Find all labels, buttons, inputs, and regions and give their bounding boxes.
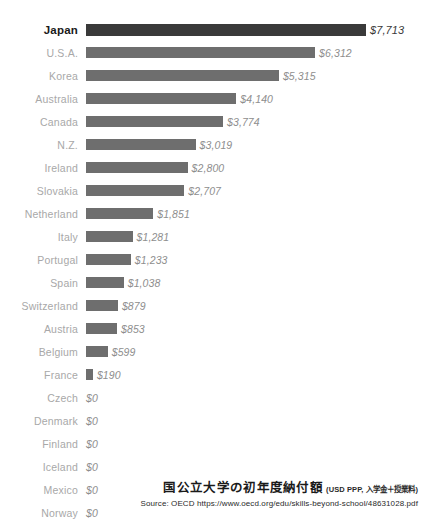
value-label: $3,774 (227, 116, 260, 128)
category-label: Japan (0, 24, 78, 36)
value-label: $1,851 (157, 208, 190, 220)
chart-row: U.S.A.$6,312 (0, 41, 426, 64)
category-label: N.Z. (0, 139, 78, 151)
value-label: $0 (86, 392, 98, 404)
bar (86, 24, 366, 36)
value-label: $1,038 (128, 277, 161, 289)
chart-row: Korea$5,315 (0, 64, 426, 87)
bar (86, 162, 188, 173)
chart-row: France$190 (0, 363, 426, 386)
bar (86, 231, 133, 242)
bar-area: $0 (78, 386, 426, 409)
chart-row: Italy$1,281 (0, 225, 426, 248)
bar-area: $599 (78, 340, 426, 363)
bar-area: $3,774 (78, 110, 426, 133)
bar (86, 323, 117, 334)
value-label: $7,713 (370, 24, 404, 36)
bar-area: $1,281 (78, 225, 426, 248)
category-label: Finland (0, 438, 78, 450)
chart-rows: Japan$7,713U.S.A.$6,312Korea$5,315Austra… (0, 18, 426, 530)
value-label: $3,019 (200, 139, 233, 151)
category-label: Spain (0, 277, 78, 289)
category-label: France (0, 369, 78, 381)
bar-area: $3,019 (78, 133, 426, 156)
bar (86, 139, 196, 150)
bar (86, 300, 118, 311)
category-label: Ireland (0, 162, 78, 174)
category-label: Canada (0, 116, 78, 128)
bar-area: $2,800 (78, 156, 426, 179)
value-label: $1,233 (135, 254, 168, 266)
value-label: $6,312 (319, 47, 352, 59)
chart-row: Slovakia$2,707 (0, 179, 426, 202)
category-label: U.S.A. (0, 47, 78, 59)
bar-area: $1,038 (78, 271, 426, 294)
category-label: Iceland (0, 461, 78, 473)
value-label: $599 (112, 346, 136, 358)
value-label: $4,140 (240, 93, 273, 105)
bar-area: $853 (78, 317, 426, 340)
bar-chart: Japan$7,713U.S.A.$6,312Korea$5,315Austra… (0, 0, 426, 530)
bar (86, 185, 184, 196)
value-label: $190 (97, 369, 121, 381)
chart-row: Japan$7,713 (0, 18, 426, 41)
chart-row: Sweden$0 (0, 524, 426, 530)
chart-row: Netherland$1,851 (0, 202, 426, 225)
value-label: $0 (86, 507, 98, 519)
value-label: $0 (86, 484, 98, 496)
chart-row: Iceland$0 (0, 455, 426, 478)
bar (86, 346, 108, 357)
value-label: $0 (86, 415, 98, 427)
chart-row: Finland$0 (0, 432, 426, 455)
bar (86, 369, 93, 380)
bar-area: $0 (78, 432, 426, 455)
category-label: Switzerland (0, 300, 78, 312)
category-label: Slovakia (0, 185, 78, 197)
value-label: $2,707 (188, 185, 221, 197)
bar (86, 70, 279, 81)
category-label: Mexico (0, 484, 78, 496)
bar-area: $0 (78, 524, 426, 530)
category-label: Portugal (0, 254, 78, 266)
chart-row: Ireland$2,800 (0, 156, 426, 179)
bar-area: $0 (78, 409, 426, 432)
category-label: Denmark (0, 415, 78, 427)
bar-area: $190 (78, 363, 426, 386)
category-label: Netherland (0, 208, 78, 220)
category-label: Czech (0, 392, 78, 404)
chart-row: Spain$1,038 (0, 271, 426, 294)
chart-title: 国公立大学の初年度納付額 (163, 481, 323, 495)
chart-row: Czech$0 (0, 386, 426, 409)
value-label: $5,315 (283, 70, 316, 82)
category-label: Belgium (0, 346, 78, 358)
chart-row: Canada$3,774 (0, 110, 426, 133)
bar (86, 47, 315, 58)
bar-area: $6,312 (78, 41, 426, 64)
category-label: Norway (0, 507, 78, 519)
bar-area: $1,851 (78, 202, 426, 225)
bar-area: $2,707 (78, 179, 426, 202)
category-label: Australia (0, 93, 78, 105)
chart-source: Source: OECD https://www.oecd.org/edu/sk… (118, 499, 418, 508)
bar-area: $4,140 (78, 87, 426, 110)
chart-row: Denmark$0 (0, 409, 426, 432)
bar-area: $5,315 (78, 64, 426, 87)
bar-area: $879 (78, 294, 426, 317)
footer-title-line: 国公立大学の初年度納付額(USD PPP, 入学金＋授業料) (118, 477, 418, 496)
chart-row: Australia$4,140 (0, 87, 426, 110)
chart-subtitle: (USD PPP, 入学金＋授業料) (326, 485, 418, 494)
value-label: $879 (122, 300, 146, 312)
bar (86, 208, 153, 219)
chart-row: N.Z.$3,019 (0, 133, 426, 156)
chart-row: Belgium$599 (0, 340, 426, 363)
bar-area: $0 (78, 455, 426, 478)
bar (86, 93, 236, 104)
bar-area: $7,713 (78, 18, 426, 41)
value-label: $1,281 (137, 231, 170, 243)
value-label: $853 (121, 323, 145, 335)
value-label: $0 (86, 461, 98, 473)
chart-row: Portugal$1,233 (0, 248, 426, 271)
chart-row: Switzerland$879 (0, 294, 426, 317)
value-label: $2,800 (192, 162, 225, 174)
value-label: $0 (86, 438, 98, 450)
